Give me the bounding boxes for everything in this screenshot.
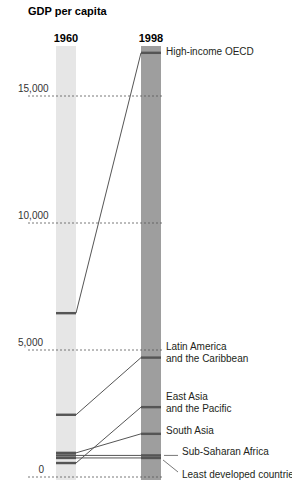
y-tick-label: 5,000 xyxy=(18,337,43,348)
year-label-1960: 1960 xyxy=(54,32,78,44)
marker-1960 xyxy=(56,454,76,456)
marker-1960 xyxy=(56,457,76,459)
leader-line xyxy=(163,460,178,472)
marker-1960 xyxy=(56,414,76,416)
marker-1960 xyxy=(56,452,76,454)
y-tick-label: 10,000 xyxy=(18,210,49,221)
series-label: South Asia xyxy=(166,425,214,436)
series-label: Least developed countries xyxy=(182,469,292,480)
chart-title: GDP per capita xyxy=(28,5,108,17)
y-tick-label: 15,000 xyxy=(18,83,49,94)
year-label-1998: 1998 xyxy=(139,32,163,44)
bar-1998 xyxy=(141,46,161,480)
slope-line xyxy=(76,407,141,463)
series-label: Sub-Saharan Africa xyxy=(182,446,269,457)
series-label: and the Caribbean xyxy=(166,353,248,364)
gdp-slope-chart: GDP per capita1960199805,00010,00015,000… xyxy=(0,0,292,494)
slope-line xyxy=(76,53,141,313)
marker-1998 xyxy=(141,454,161,456)
series-label: and the Pacific xyxy=(166,403,232,414)
marker-1960 xyxy=(56,312,76,314)
marker-1998 xyxy=(141,356,161,358)
marker-1998 xyxy=(141,52,161,54)
slope-line xyxy=(76,358,141,415)
marker-1998 xyxy=(141,433,161,435)
slope-line xyxy=(76,434,141,453)
series-label: East Asia xyxy=(166,391,208,402)
marker-1998 xyxy=(141,457,161,459)
y-tick-label: 0 xyxy=(38,464,44,475)
marker-1960 xyxy=(56,462,76,464)
marker-1998 xyxy=(141,406,161,408)
series-label: Latin America xyxy=(166,341,227,352)
series-label: High-income OECD xyxy=(166,46,254,57)
